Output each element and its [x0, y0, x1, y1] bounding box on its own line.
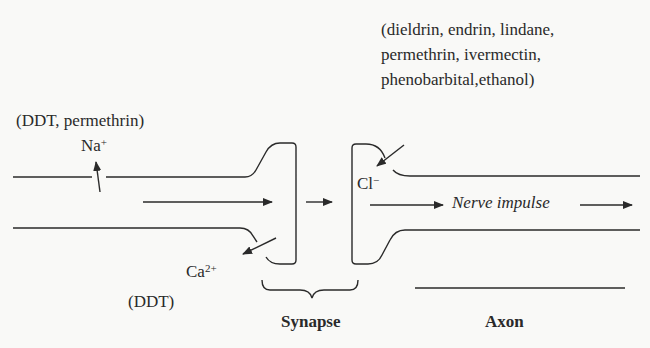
calcium-arrow	[243, 238, 276, 254]
chloride-toxins-line2: permethrin, ivermectin,	[381, 45, 541, 65]
chloride-toxins-line3: phenobarbital,ethanol)	[381, 70, 534, 90]
sodium-symbol: Na	[81, 136, 101, 155]
sodium-ion-label: Na+	[81, 136, 107, 156]
calcium-ion-label: Ca2+	[186, 262, 217, 282]
calcium-symbol: Ca	[186, 262, 205, 281]
synapse-brace	[262, 280, 358, 298]
calcium-charge: 2+	[205, 262, 217, 274]
chloride-ion-label: Cl−	[357, 174, 379, 194]
calcium-toxins-label: (DDT)	[128, 292, 174, 312]
chloride-charge: −	[373, 174, 379, 186]
axon-label: Axon	[485, 312, 524, 332]
diagram-canvas: (dieldrin, endrin, lindane, permethrin, …	[0, 0, 650, 348]
chloride-symbol: Cl	[357, 174, 373, 193]
chloride-arrow	[377, 145, 404, 166]
sodium-toxins-label: (DDT, permethrin)	[16, 111, 144, 131]
chloride-toxins-line1: (dieldrin, endrin, lindane,	[381, 20, 554, 40]
sodium-charge: +	[101, 136, 107, 148]
diagram-drawing	[0, 0, 650, 348]
nerve-impulse-label: Nerve impulse	[452, 193, 550, 213]
presynaptic-bottom-membrane	[13, 228, 257, 242]
synapse-label: Synapse	[281, 312, 341, 332]
sodium-arrow	[96, 162, 100, 192]
postsynaptic-membrane	[393, 170, 640, 176]
